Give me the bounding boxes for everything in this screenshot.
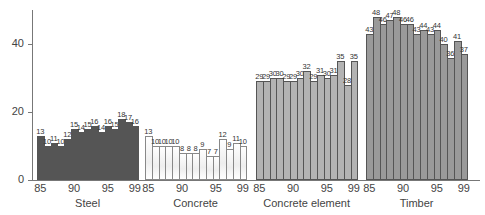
x-tick-label: 85 bbox=[249, 182, 269, 194]
x-tick-label: 85 bbox=[138, 182, 158, 194]
bar-value-label: 35 bbox=[347, 53, 361, 61]
bar-value-label: 35 bbox=[333, 53, 347, 61]
x-tick-label: 90 bbox=[283, 182, 303, 194]
bar-steel bbox=[132, 126, 140, 180]
group-label: Concrete bbox=[136, 197, 256, 209]
x-tick-label: 99 bbox=[454, 182, 474, 194]
bar-value-label: 44 bbox=[430, 22, 444, 30]
bar-value-label: 41 bbox=[450, 33, 464, 41]
group-label: Concrete element bbox=[247, 197, 367, 209]
bar-value-label: 40 bbox=[437, 36, 451, 44]
bar-value-label: 32 bbox=[300, 63, 314, 71]
bar-value-label: 46 bbox=[403, 16, 417, 24]
y-tick-label: 20 bbox=[4, 105, 24, 117]
x-tick-label: 90 bbox=[64, 182, 84, 194]
bar-value-label: 13 bbox=[33, 128, 47, 136]
y-tick-label: 0 bbox=[4, 173, 24, 185]
bar-timber bbox=[461, 54, 469, 180]
group-label: Steel bbox=[28, 197, 148, 209]
bar-value-label: 10 bbox=[236, 138, 250, 146]
x-tick-label: 85 bbox=[359, 182, 379, 194]
bar-value-label: 13 bbox=[141, 128, 155, 136]
x-tick-label: 90 bbox=[172, 182, 192, 194]
x-tick-label: 85 bbox=[30, 182, 50, 194]
bar-value-label: 37 bbox=[457, 46, 471, 54]
bar-value-label: 16 bbox=[128, 118, 142, 126]
bar-value-label: 12 bbox=[216, 131, 230, 139]
group-label: Timber bbox=[357, 197, 477, 209]
x-tick-label: 95 bbox=[206, 182, 226, 194]
y-tick-mark bbox=[28, 44, 32, 45]
y-tick-mark bbox=[28, 180, 32, 181]
bar-concrete-element bbox=[351, 61, 359, 180]
x-tick-label: 95 bbox=[98, 182, 118, 194]
y-tick-mark bbox=[28, 112, 32, 113]
y-axis bbox=[32, 10, 33, 180]
bar-concrete bbox=[240, 146, 248, 180]
bar-chart: 0204013101110121514151614161518171685909… bbox=[0, 0, 485, 215]
x-tick-label: 95 bbox=[427, 182, 447, 194]
y-tick-label: 40 bbox=[4, 37, 24, 49]
x-tick-label: 90 bbox=[393, 182, 413, 194]
x-axis bbox=[28, 180, 480, 181]
x-tick-label: 95 bbox=[317, 182, 337, 194]
